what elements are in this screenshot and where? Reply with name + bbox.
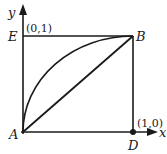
point-B-label: B	[135, 29, 146, 44]
point-A-label: A	[8, 127, 18, 142]
y-axis-arrow-icon	[19, 4, 27, 15]
point-E-label: E	[7, 29, 18, 44]
point-D-dot	[130, 129, 136, 135]
point-E-coord: (0,1)	[26, 22, 52, 35]
point-D-coord: (1,0)	[137, 117, 163, 130]
unit-square-diagram: y x E (0,1) B A D (1,0)	[0, 0, 167, 154]
point-D-label: D	[127, 138, 139, 153]
diagonal-AB	[23, 36, 133, 132]
y-axis-label: y	[7, 5, 16, 20]
